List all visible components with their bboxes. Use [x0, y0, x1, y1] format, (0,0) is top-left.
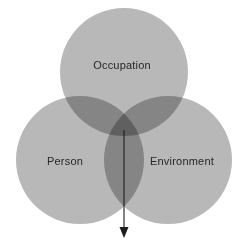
label-person: Person	[47, 155, 83, 167]
label-occupation: Occupation	[93, 59, 151, 71]
venn-diagram: Occupation Person Environment	[0, 0, 248, 247]
label-environment: Environment	[150, 155, 214, 167]
venn-diagram-canvas: Occupation Person Environment	[0, 0, 248, 247]
